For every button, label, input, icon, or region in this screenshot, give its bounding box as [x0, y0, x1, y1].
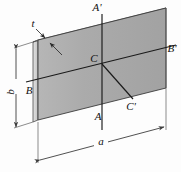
axis-b-label: B	[26, 84, 33, 96]
plate-solid	[33, 8, 166, 122]
thickness-label: t	[31, 17, 35, 29]
axis-c-prime-label: C'	[126, 100, 136, 112]
plate-thickness-face	[33, 40, 38, 122]
dimension-b-extension-top	[14, 42, 33, 48]
axis-a-prime-label: A'	[91, 1, 102, 13]
dimension-b-label: b	[4, 89, 16, 95]
thickness-leader-upper	[36, 29, 45, 38]
axis-a-label: A	[94, 110, 102, 122]
plate-axes-figure: b A' A B B' C C'	[0, 0, 181, 172]
figure-canvas: b A' A B B' C C'	[0, 0, 181, 172]
axis-c-label: C	[90, 52, 98, 64]
axis-b-prime-label: B'	[167, 42, 177, 54]
dimension-a-label: a	[98, 135, 104, 147]
dimension-b-extension-bottom	[14, 122, 33, 128]
